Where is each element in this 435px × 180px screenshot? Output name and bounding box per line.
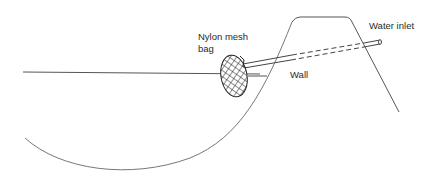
pipe-upper-solid: [243, 55, 292, 64]
bag-label-line2: bag: [198, 43, 248, 55]
nylon-mesh-bag-label: Nylon mesh bag: [198, 31, 248, 55]
pipe-lower-solid: [244, 60, 291, 68]
nylon-mesh-bag: [218, 53, 251, 99]
pipe-outlet-lower: [364, 44, 380, 47]
pipe-upper-dashed: [292, 43, 364, 55]
bag-label-line1: Nylon mesh: [198, 31, 248, 43]
pond-basin-curve: [25, 22, 292, 170]
pipe-outlet-upper: [364, 40, 380, 43]
water-inlet-label: Water inlet: [369, 20, 414, 32]
pipe-inlet-end: [379, 40, 382, 45]
wall-label: Wall: [290, 69, 308, 81]
